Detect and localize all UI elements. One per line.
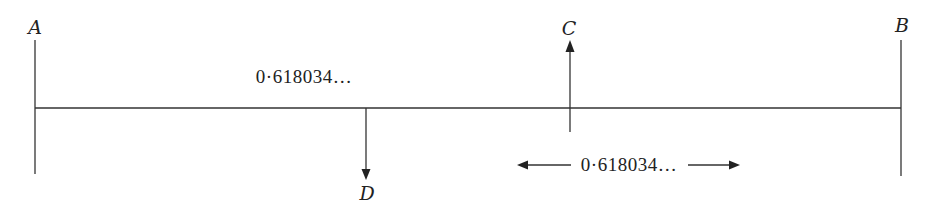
label-a: A — [26, 16, 42, 38]
golden-section-diagram: A B C D 0·618034… 0·618034… — [0, 0, 933, 209]
label-d: D — [358, 182, 374, 204]
label-c: C — [562, 17, 577, 39]
top-measure-label: 0·618034… — [256, 66, 352, 87]
arrow-left-icon — [517, 161, 528, 170]
arrow-right-icon — [729, 161, 740, 170]
arrow-down-icon — [362, 169, 371, 180]
bottom-measure-label: 0·618034… — [581, 154, 677, 175]
label-b: B — [894, 14, 909, 36]
arrow-up-icon — [566, 40, 575, 52]
